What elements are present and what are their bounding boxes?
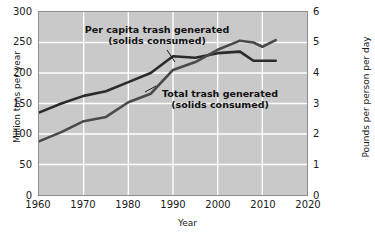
- y-tick-right-1: 1: [313, 159, 337, 170]
- x-tick-2020: 2020: [288, 199, 328, 210]
- x-tick-2000: 2000: [198, 199, 238, 210]
- annotation-total-line2: (solids consumed): [140, 99, 300, 110]
- y-tick-left-100: 100: [2, 128, 32, 139]
- y-tick-left-150: 150: [2, 98, 32, 109]
- x-tick-1990: 1990: [153, 199, 193, 210]
- y-axis-left-title: Million tons per year: [12, 32, 22, 162]
- x-tick-1980: 1980: [108, 199, 148, 210]
- y-axis-right-title: Pounds per person per day: [361, 27, 371, 167]
- y-tick-left-200: 200: [2, 67, 32, 78]
- annotation-per-capita-line2: (solids consumed): [72, 35, 242, 46]
- y-tick-right-3: 3: [313, 98, 337, 109]
- x-tick-1970: 1970: [63, 199, 103, 210]
- y-tick-right-2: 2: [313, 128, 337, 139]
- y-tick-left-300: 300: [2, 6, 32, 17]
- y-tick-right-5: 5: [313, 36, 337, 47]
- x-tick-1960: 1960: [18, 199, 58, 210]
- x-axis-title: Year: [0, 218, 375, 228]
- chart-container: Million tons per year Pounds per person …: [0, 0, 375, 244]
- y-tick-left-50: 50: [2, 159, 32, 170]
- y-tick-right-6: 6: [313, 6, 337, 17]
- annotation-total-line1: Total trash generated: [140, 88, 300, 99]
- annotation-per-capita: Per capita trash generated (solids consu…: [72, 24, 242, 46]
- annotation-total: Total trash generated (solids consumed): [140, 88, 300, 110]
- y-tick-left-250: 250: [2, 36, 32, 47]
- y-tick-right-4: 4: [313, 67, 337, 78]
- x-tick-2010: 2010: [243, 199, 283, 210]
- annotation-per-capita-line1: Per capita trash generated: [72, 24, 242, 35]
